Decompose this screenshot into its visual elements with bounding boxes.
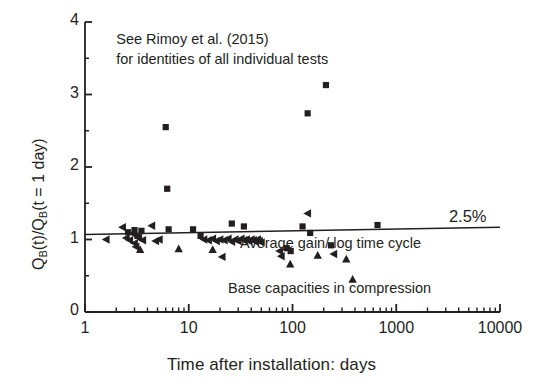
- data-point-triangle-left: [218, 253, 226, 261]
- data-point-square: [241, 223, 247, 229]
- data-point-square: [166, 226, 172, 232]
- data-point-square: [305, 110, 311, 116]
- y-axis-title-q1: Q: [30, 258, 47, 270]
- trend-caption: Average gain/ log time cycle: [240, 234, 421, 254]
- x-axis-title: Time after installation: days: [0, 355, 543, 375]
- data-point-square: [190, 226, 196, 232]
- average-gain-trendline: [85, 227, 500, 234]
- y-tick-label: 0: [63, 301, 79, 319]
- source-note-line-1: See Rimoy et al. (2015): [116, 30, 328, 50]
- y-tick-label: 4: [63, 11, 79, 29]
- x-tick-label: 100: [253, 319, 333, 337]
- y-axis-title-sub2: B: [37, 211, 49, 218]
- data-point-square: [138, 228, 144, 234]
- y-tick-label: 2: [63, 156, 79, 174]
- x-tick-label: 1000: [356, 319, 436, 337]
- data-point-square: [323, 82, 329, 88]
- data-point-triangle-up: [342, 255, 350, 263]
- data-point-square: [164, 186, 170, 192]
- x-tick-label: 10000: [460, 319, 540, 337]
- y-axis-title-sub1: B: [37, 250, 49, 257]
- data-point-triangle-left: [118, 223, 126, 231]
- data-point-square: [374, 222, 380, 228]
- data-point-triangle-left: [303, 209, 311, 217]
- percent-label: 2.5%: [449, 207, 487, 226]
- y-tick-label: 1: [63, 229, 79, 247]
- y-axis-title-mid: (t)/Q: [30, 218, 47, 250]
- figure-root: QB(t)/QB(t = 1 day) Time after installat…: [0, 0, 543, 387]
- y-tick-label: 3: [63, 84, 79, 102]
- source-note-line-2: for identities of all individual tests: [116, 50, 328, 70]
- data-point-triangle-up: [208, 245, 216, 253]
- source-note: See Rimoy et al. (2015)for identities of…: [116, 30, 328, 69]
- data-point-triangle-left: [147, 222, 155, 230]
- x-tick-label: 1: [45, 319, 125, 337]
- data-point-square: [163, 124, 169, 130]
- data-point-square: [299, 223, 305, 229]
- data-point-square: [229, 220, 235, 226]
- y-axis-title: QB(t)/QB(t = 1 day): [30, 138, 49, 270]
- y-axis-title-tail: (t = 1 day): [30, 138, 47, 210]
- series-caption: Base capacities in compression: [228, 279, 431, 299]
- data-point-triangle-up: [286, 260, 294, 268]
- data-point-triangle-left: [102, 235, 110, 243]
- data-point-triangle-up: [174, 245, 182, 253]
- x-tick-label: 10: [149, 319, 229, 337]
